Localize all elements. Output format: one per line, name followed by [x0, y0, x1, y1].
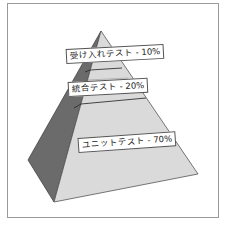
pyramid-graphic	[0, 0, 225, 225]
